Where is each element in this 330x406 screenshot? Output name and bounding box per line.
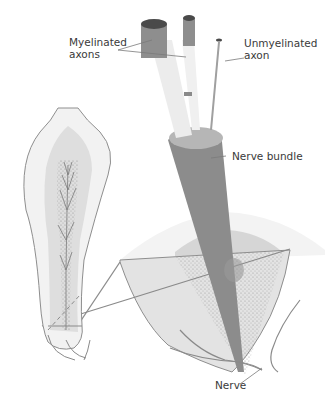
label-nerve-bundle: Nerve bundle bbox=[232, 150, 303, 162]
unmyelinated-axon bbox=[216, 38, 222, 41]
label-myelinated-axons: Myelinated axons bbox=[69, 36, 127, 60]
label-nerve: Nerve bbox=[215, 379, 246, 391]
myelinated-axon-small bbox=[183, 18, 195, 46]
label-unmyelinated-axon: Unmyelinated axon bbox=[244, 37, 317, 61]
tooth-illustration bbox=[24, 108, 111, 360]
axons bbox=[141, 15, 222, 138]
